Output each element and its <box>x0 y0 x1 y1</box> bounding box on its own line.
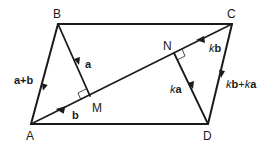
label-D: D <box>203 129 212 143</box>
vector-label-kb-plus-ka: kb+ka <box>226 78 257 90</box>
vector-label-a: a <box>85 58 92 70</box>
label-M: M <box>92 101 102 115</box>
vector-label-kb: kb <box>209 42 222 54</box>
vector-label-ka: ka <box>170 83 183 95</box>
side-BA <box>31 24 58 124</box>
vector-label-b: b <box>72 109 79 121</box>
label-B: B <box>53 7 61 21</box>
label-N: N <box>163 39 172 53</box>
label-C: C <box>227 7 236 21</box>
label-A: A <box>26 129 34 143</box>
parallelogram-diagram: B C A D M N a+b a b kb ka kb+ka <box>0 0 274 147</box>
vector-label-a-plus-b: a+b <box>14 74 34 86</box>
